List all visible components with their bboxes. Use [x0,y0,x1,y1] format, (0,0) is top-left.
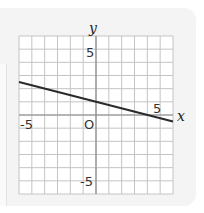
y-tick-neg5: -5 [80,174,93,189]
y-tick-5: 5 [86,45,94,60]
y-axis-label: y [88,20,98,36]
x-tick-5: 5 [153,101,161,116]
x-tick-neg5: -5 [20,117,33,132]
x-axis-label: x [177,108,185,124]
origin-label: O [84,117,94,132]
coordinate-plane: y x 5 5 -5 O -5 [0,0,204,213]
